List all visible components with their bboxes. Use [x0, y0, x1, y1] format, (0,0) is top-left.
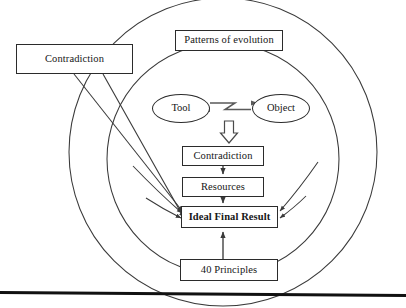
connector-contradiction-curve-a [133, 166, 182, 213]
node-40-principles: 40 Principles [180, 259, 278, 281]
block-arrow-down [221, 121, 238, 143]
node-ideal-final-result: Ideal Final Result [181, 206, 278, 228]
node-label: Object [267, 103, 295, 114]
node-resources: Resources [182, 177, 264, 197]
bottom-rule [0, 293, 406, 296]
node-label: 40 Principles [201, 265, 257, 276]
node-label: Patterns of evolution [184, 35, 274, 46]
node-label: Contradiction [45, 54, 104, 65]
node-object: Object [252, 94, 310, 123]
node-label: Contradiction [193, 151, 252, 162]
node-label: Resources [201, 182, 245, 193]
node-contradiction-outer: Contradiction [16, 44, 133, 74]
node-tool: Tool [152, 94, 210, 123]
connector-patterns-to-ifr-1 [280, 162, 318, 211]
node-contradiction-inner: Contradiction [182, 146, 264, 166]
connector-object-to-tool [210, 103, 251, 110]
node-patterns-of-evolution: Patterns of evolution [175, 30, 283, 51]
node-label: Ideal Final Result [189, 212, 271, 223]
node-label: Tool [171, 103, 190, 114]
diagram-canvas: Patterns of evolution Contradiction Tool… [0, 0, 406, 308]
